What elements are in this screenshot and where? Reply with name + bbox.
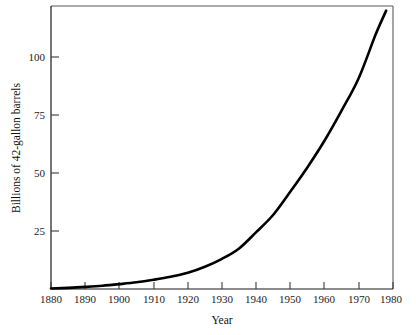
- y-tick-label: 25: [34, 225, 46, 237]
- y-tick-label: 75: [34, 109, 46, 121]
- y-axis-ticks: [51, 57, 59, 231]
- x-tick-label: 1980: [380, 293, 403, 305]
- line-chart: 100 75 50 25 1880 1890 1900 1910 1920: [0, 0, 416, 335]
- x-tick-label: 1890: [74, 293, 97, 305]
- y-axis-title: Billions of 42-gallon barrels: [10, 82, 23, 213]
- y-tick-label: 100: [29, 51, 46, 63]
- x-tick-label: 1960: [313, 293, 336, 305]
- y-tick-label: 50: [34, 167, 46, 179]
- x-tick-label: 1910: [143, 293, 166, 305]
- data-curve-cumulative-production: [51, 11, 386, 289]
- x-tick-label: 1920: [177, 293, 200, 305]
- x-axis-title: Year: [211, 314, 232, 326]
- y-axis-tick-labels: 100 75 50 25: [29, 51, 46, 237]
- x-tick-label: 1880: [40, 293, 63, 305]
- x-axis-tick-labels: 1880 1890 1900 1910 1920 1930 1940 1950 …: [40, 293, 403, 305]
- x-tick-label: 1970: [348, 293, 371, 305]
- x-tick-label: 1930: [211, 293, 234, 305]
- chart-figure: 100 75 50 25 1880 1890 1900 1910 1920: [0, 0, 416, 335]
- x-tick-label: 1950: [279, 293, 302, 305]
- x-tick-label: 1940: [245, 293, 268, 305]
- x-tick-label: 1900: [108, 293, 131, 305]
